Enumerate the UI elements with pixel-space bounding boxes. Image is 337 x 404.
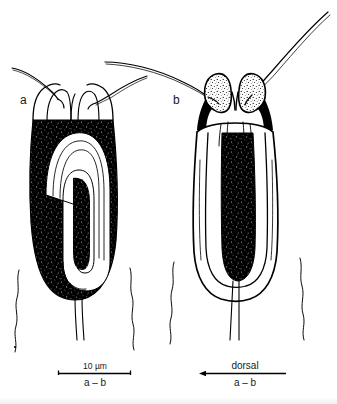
scale-bar-left-value: 10 µm: [83, 361, 107, 371]
orientation-bar-caption: a – b: [234, 377, 257, 388]
ink-speck-artifact: [14, 346, 16, 348]
panel-b-central-mass: [221, 133, 255, 281]
scientific-illustration: a: [0, 0, 337, 404]
figure-container: a: [0, 0, 337, 404]
panel-label-a: a: [20, 93, 27, 107]
panel-label-b: b: [173, 93, 180, 107]
scale-bar-left-caption: a – b: [84, 377, 107, 388]
orientation-bar-direction-label: dorsal: [231, 360, 258, 371]
